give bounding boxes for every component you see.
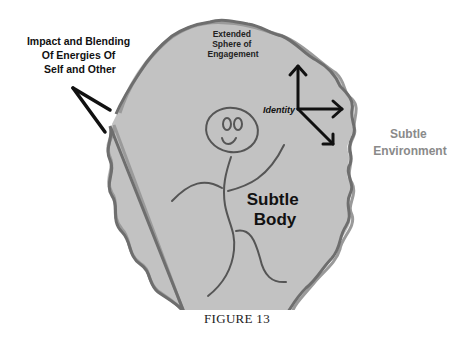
impact-label: Impact and Blending Of Energies Of Self … (27, 35, 133, 75)
subtle-environment-line-1: Subtle (390, 127, 427, 141)
extended-sphere-line-3: Engagement (207, 49, 258, 59)
figure-caption: FIGURE 13 (0, 311, 474, 327)
extended-sphere-line-2: Sphere of (212, 39, 251, 49)
subtle-environment-line-2: Environment (373, 144, 446, 158)
identity-label: Identity (263, 105, 296, 115)
extended-sphere-line-1: Extended (213, 29, 251, 39)
subtle-environment-label: Subtle Environment (373, 127, 446, 158)
figure-13-diagram: Impact and Blending Of Energies Of Self … (0, 0, 474, 340)
impact-label-line-2: Of Energies Of (42, 49, 116, 61)
extended-sphere-label: Extended Sphere of Engagement (207, 29, 258, 59)
subtle-body-line-2: Body (254, 210, 297, 229)
impact-chevron-icon (73, 88, 110, 132)
impact-label-line-3: Self and Other (44, 63, 116, 75)
subtle-body-label: Subtle Body (247, 190, 304, 229)
subtle-body-line-1: Subtle (247, 190, 299, 209)
impact-label-line-1: Impact and Blending (27, 35, 130, 47)
subtle-body-sphere (106, 20, 356, 313)
